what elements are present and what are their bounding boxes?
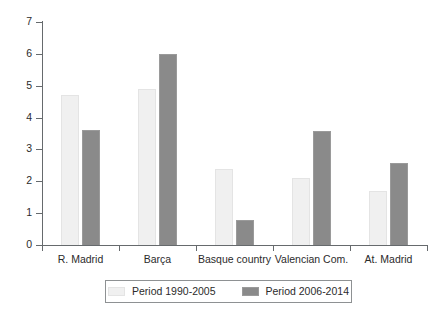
y-axis-tick-label: 0 [26, 238, 36, 251]
x-axis-label: R. Madrid [58, 252, 104, 266]
bar [236, 220, 254, 245]
x-axis-tick [196, 246, 197, 251]
legend-entry: Period 1990-2005 [108, 285, 215, 298]
bar [61, 95, 79, 245]
bar [292, 178, 310, 245]
y-axis-tick-label: 1 [26, 206, 36, 219]
x-axis-tick [273, 246, 274, 251]
y-axis-tick-label: 5 [26, 79, 36, 92]
dark-swatch-icon [242, 287, 259, 296]
bar [138, 89, 156, 245]
legend-label: Period 1990-2005 [132, 285, 215, 298]
y-axis-tick-label: 6 [26, 47, 36, 60]
x-axis-tick [427, 246, 428, 251]
legend-label: Period 2006-2014 [266, 285, 349, 298]
bar [390, 163, 408, 245]
plot-area [42, 22, 427, 245]
bar [82, 130, 100, 245]
x-axis-label: At. Madrid [365, 252, 413, 266]
x-axis-label: Basque country [198, 252, 271, 266]
legend-entry: Period 2006-2014 [242, 285, 349, 298]
bar [313, 131, 331, 245]
light-swatch-icon [108, 287, 125, 296]
x-axis-tick [119, 246, 120, 251]
bar [159, 54, 177, 245]
bar-chart-figure: 01234567 R. MadridBarçaBasque countryVal… [0, 0, 443, 318]
x-axis-line [42, 245, 428, 246]
chart-legend: Period 1990-2005Period 2006-2014 [105, 280, 352, 303]
y-axis-tick-label: 4 [26, 111, 36, 124]
y-axis-tick-label: 2 [26, 174, 36, 187]
x-axis-tick [42, 246, 43, 251]
x-axis-tick [350, 246, 351, 251]
x-axis-label: Barça [144, 252, 171, 266]
bar [369, 191, 387, 245]
bar [215, 169, 233, 245]
x-axis-label: Valencian Com. [275, 252, 348, 266]
y-axis-tick-label: 3 [26, 142, 36, 155]
y-axis-tick-label: 7 [26, 15, 36, 28]
